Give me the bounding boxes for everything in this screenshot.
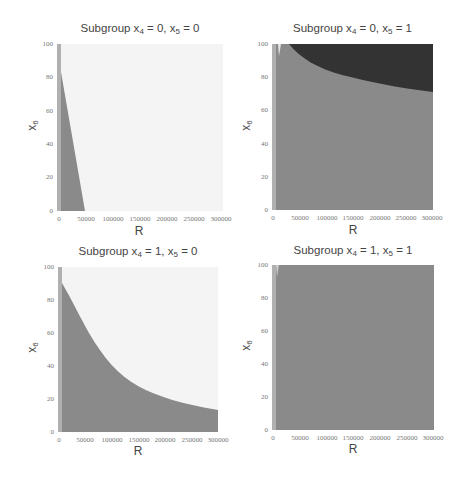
y-tick: 60 bbox=[33, 107, 53, 115]
x-tick: 0 bbox=[57, 436, 61, 444]
subplot-title: Subgroup x4 = 1, x5 = 1 bbox=[272, 244, 434, 258]
y-tick: 100 bbox=[248, 261, 268, 269]
y-tick: 40 bbox=[33, 140, 53, 148]
x-tick: 50000 bbox=[291, 214, 309, 222]
y-tick: 60 bbox=[34, 329, 54, 337]
y-tick: 80 bbox=[33, 73, 53, 81]
x-tick: 0 bbox=[57, 215, 61, 223]
y-tick: 40 bbox=[248, 360, 268, 368]
y-tick: 20 bbox=[33, 173, 53, 181]
x-tick: 150000 bbox=[130, 215, 151, 223]
x-tick: 50000 bbox=[76, 436, 94, 444]
x-tick: 250000 bbox=[182, 436, 203, 444]
x-tick: 150000 bbox=[129, 436, 150, 444]
x-tick: 0 bbox=[271, 434, 275, 442]
x-axis-label: R bbox=[349, 223, 358, 237]
y-tick: 20 bbox=[248, 173, 268, 181]
x-tick: 100000 bbox=[317, 434, 338, 442]
y-axis-label: x6 bbox=[239, 120, 254, 130]
y-tick: 100 bbox=[248, 40, 268, 48]
x-tick: 100000 bbox=[103, 215, 124, 223]
x-axis-label: R bbox=[134, 444, 143, 458]
x-axis-label: R bbox=[349, 442, 358, 456]
x-tick: 250000 bbox=[396, 214, 417, 222]
x-tick: 300000 bbox=[211, 215, 232, 223]
y-tick: 0 bbox=[33, 207, 53, 215]
subplot-title: Subgroup x4 = 0, x5 = 0 bbox=[57, 22, 223, 36]
y-tick: 0 bbox=[34, 428, 54, 436]
y-axis-label: x6 bbox=[25, 342, 40, 352]
y-tick: 0 bbox=[248, 426, 268, 434]
subplot-title: Subgroup x4 = 0, x5 = 1 bbox=[272, 22, 433, 36]
y-tick: 80 bbox=[248, 294, 268, 302]
y-axis-label: x6 bbox=[25, 120, 40, 130]
x-tick: 100000 bbox=[317, 214, 338, 222]
subplot-title: Subgroup x4 = 1, x5 = 0 bbox=[58, 245, 218, 259]
x-tick: 50000 bbox=[291, 434, 309, 442]
x-tick: 200000 bbox=[155, 436, 176, 444]
plot-area bbox=[58, 267, 218, 432]
x-tick: 300000 bbox=[422, 214, 443, 222]
x-tick: 200000 bbox=[157, 215, 178, 223]
x-axis-label: R bbox=[135, 224, 144, 238]
x-tick: 100000 bbox=[102, 436, 123, 444]
y-tick: 100 bbox=[33, 40, 53, 48]
x-tick: 300000 bbox=[423, 434, 444, 442]
x-tick: 200000 bbox=[370, 434, 391, 442]
y-tick: 40 bbox=[248, 140, 268, 148]
y-tick: 20 bbox=[34, 395, 54, 403]
x-tick: 150000 bbox=[343, 434, 364, 442]
plot-area bbox=[57, 44, 223, 211]
y-tick: 100 bbox=[34, 263, 54, 271]
x-tick: 0 bbox=[271, 214, 275, 222]
y-tick: 60 bbox=[248, 327, 268, 335]
x-tick: 200000 bbox=[370, 214, 391, 222]
y-tick: 40 bbox=[34, 362, 54, 370]
y-axis-label: x6 bbox=[239, 340, 254, 350]
plot-area bbox=[272, 44, 433, 210]
x-tick: 250000 bbox=[397, 434, 418, 442]
y-tick: 0 bbox=[248, 206, 268, 214]
x-tick: 250000 bbox=[184, 215, 205, 223]
x-tick: 150000 bbox=[343, 214, 364, 222]
x-tick: 300000 bbox=[208, 436, 229, 444]
y-tick: 80 bbox=[248, 73, 268, 81]
y-tick: 60 bbox=[248, 106, 268, 114]
x-tick: 50000 bbox=[77, 215, 95, 223]
y-tick: 20 bbox=[248, 393, 268, 401]
y-tick: 80 bbox=[34, 296, 54, 304]
plot-area bbox=[272, 265, 434, 430]
